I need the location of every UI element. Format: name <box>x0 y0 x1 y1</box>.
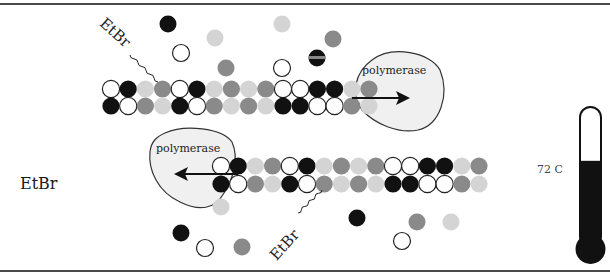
top-strand-complement-base <box>360 97 377 114</box>
top-strand-complement-base <box>326 97 343 114</box>
bottom-strand-base <box>316 157 333 174</box>
top-strand-base <box>309 80 326 97</box>
diagram-svg <box>0 0 610 279</box>
top-strand-complement-base <box>206 97 223 114</box>
bottom-strand-base <box>367 157 384 174</box>
bottom-strand-complement-base <box>419 175 436 192</box>
bottom-strand-complement-base <box>264 175 281 192</box>
bottom-strand-complement-base <box>333 175 350 192</box>
bottom-strand-complement-base <box>350 175 367 192</box>
bottom-strand-base <box>384 157 401 174</box>
top-strand-complement-base <box>188 97 205 114</box>
bottom-strand-base <box>402 157 419 174</box>
top-strand-base <box>292 80 309 97</box>
free-nucleotide <box>274 16 291 33</box>
free-nucleotide <box>218 60 235 77</box>
diagram-canvas: EtBr 72 C polymerase polymerase EtBr EtB… <box>0 0 610 279</box>
bottom-strand-base <box>247 157 264 174</box>
etbr-tether-bottom <box>298 190 322 213</box>
top-strand-base <box>326 80 343 97</box>
top-strand-complement-base <box>154 97 171 114</box>
top-strand-complement-base <box>120 97 137 114</box>
top-strand-base <box>360 80 377 97</box>
bottom-strand-complement-base <box>470 175 487 192</box>
bottom-strand-complement-base <box>316 175 333 192</box>
bottom-strand-complement-base <box>453 175 470 192</box>
bottom-strand-base <box>436 157 453 174</box>
top-strand-base <box>274 80 291 97</box>
bottom-strand-base <box>264 157 281 174</box>
bottom-strand-complement-base <box>230 175 247 192</box>
bottom-strand-base <box>281 157 298 174</box>
bottom-strand-base <box>419 157 436 174</box>
free-nucleotide <box>394 233 411 250</box>
top-strand-base <box>223 80 240 97</box>
bottom-strand-base <box>453 157 470 174</box>
top-strand-base <box>102 80 119 97</box>
free-nucleotide <box>349 210 366 227</box>
bottom-strand-complement-base <box>298 175 315 192</box>
bottom-strand-complement-base <box>367 175 384 192</box>
top-strand-complement-base <box>292 97 309 114</box>
free-nucleotide <box>213 199 230 216</box>
bottom-strand-base <box>212 157 229 174</box>
free-nucleotide <box>409 214 426 231</box>
top-strand-complement-base <box>223 97 240 114</box>
etbr-tether-top <box>130 55 158 82</box>
free-nucleotide <box>325 31 342 48</box>
top-strand-complement-base <box>257 97 274 114</box>
polymerase-label-top: polymerase <box>362 64 426 77</box>
bottom-strand-complement-base <box>212 175 229 192</box>
free-nucleotide <box>173 225 190 242</box>
free-nucleotide <box>160 16 177 33</box>
top-strand-base <box>343 80 360 97</box>
top-strand-complement-base <box>240 97 257 114</box>
bottom-strand-base <box>230 157 247 174</box>
top-strand-base <box>206 80 223 97</box>
top-strand-base <box>257 80 274 97</box>
bottom-strand-base <box>298 157 315 174</box>
top-strand-complement-base <box>102 97 119 114</box>
top-strand-complement-base <box>343 97 360 114</box>
free-etbr-label: EtBr <box>20 174 58 193</box>
polymerase-label-bottom: polymerase <box>156 142 220 155</box>
top-strand-complement-base <box>274 97 291 114</box>
top-strand-complement-base <box>137 97 154 114</box>
top-strand-base <box>240 80 257 97</box>
top-strand-complement-base <box>309 97 326 114</box>
top-strand-base <box>154 80 171 97</box>
free-nucleotide <box>207 30 224 47</box>
bottom-strand-base <box>470 157 487 174</box>
top-strand-base <box>137 80 154 97</box>
temperature-label: 72 C <box>537 163 563 176</box>
bottom-strand-base <box>333 157 350 174</box>
bottom-strand-complement-base <box>402 175 419 192</box>
bottom-strand-complement-base <box>281 175 298 192</box>
free-nucleotide <box>173 45 190 62</box>
free-nucleotide <box>443 214 460 231</box>
free-nucleotide <box>197 240 214 257</box>
free-nucleotide <box>234 239 251 256</box>
top-strand-base <box>120 80 137 97</box>
thermometer-icon <box>576 107 606 264</box>
bottom-strand-complement-base <box>436 175 453 192</box>
bottom-strand-complement-base <box>384 175 401 192</box>
top-strand-base <box>188 80 205 97</box>
top-strand-base <box>171 80 188 97</box>
top-strand-complement-base <box>171 97 188 114</box>
nucleotide-stripe <box>309 56 326 59</box>
bottom-strand-complement-base <box>247 175 264 192</box>
free-nucleotide <box>274 60 291 77</box>
bottom-strand-base <box>350 157 367 174</box>
